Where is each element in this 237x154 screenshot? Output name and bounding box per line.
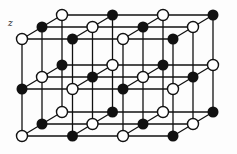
open-ion-icon — [188, 119, 199, 130]
open-ion-icon — [138, 72, 149, 83]
filled-ion-icon — [37, 22, 48, 33]
open-ion-icon — [57, 10, 68, 21]
open-ion-icon — [17, 34, 28, 45]
filled-ion-icon — [37, 119, 48, 130]
open-ion-icon — [158, 107, 169, 118]
filled-ion-icon — [67, 131, 78, 142]
open-ion-icon — [17, 131, 28, 142]
filled-ion-icon — [138, 119, 149, 130]
z-axis-label: z — [8, 18, 13, 28]
open-ion-icon — [87, 119, 98, 130]
filled-ion-icon — [168, 131, 179, 142]
filled-ion-icon — [118, 84, 129, 95]
filled-ion-icon — [107, 10, 118, 21]
open-ion-icon — [118, 131, 129, 142]
filled-ion-icon — [208, 107, 219, 118]
lattice-bonds — [22, 15, 213, 136]
open-ion-icon — [168, 84, 179, 95]
lattice-diagram: z — [0, 0, 237, 154]
filled-ion-icon — [188, 72, 199, 83]
filled-ion-icon — [138, 22, 149, 33]
filled-ion-icon — [168, 34, 179, 45]
filled-ion-icon — [107, 107, 118, 118]
open-ion-icon — [158, 10, 169, 21]
filled-ion-icon — [87, 72, 98, 83]
open-ion-icon — [37, 72, 48, 83]
lattice-atoms — [17, 10, 219, 142]
filled-ion-icon — [57, 60, 68, 71]
filled-ion-icon — [17, 84, 28, 95]
open-ion-icon — [67, 84, 78, 95]
open-ion-icon — [208, 60, 219, 71]
open-ion-icon — [57, 107, 68, 118]
crystal-lattice-graphic — [0, 0, 237, 154]
open-ion-icon — [188, 22, 199, 33]
filled-ion-icon — [67, 34, 78, 45]
open-ion-icon — [107, 60, 118, 71]
filled-ion-icon — [208, 10, 219, 21]
open-ion-icon — [87, 22, 98, 33]
open-ion-icon — [118, 34, 129, 45]
filled-ion-icon — [158, 60, 169, 71]
